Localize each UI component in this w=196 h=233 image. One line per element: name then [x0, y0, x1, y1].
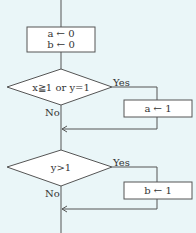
return-line-2 [62, 199, 157, 209]
decision2-no-label: No [45, 189, 60, 199]
decision1-yes-label: Yes [113, 78, 130, 88]
init-text-b: b ← 0 [47, 40, 75, 50]
return-line-1 [62, 117, 157, 129]
decision1-condition: x≧1 or y=1 [32, 83, 90, 93]
yes-branch-line-1 [112, 87, 157, 100]
decision2-yes-label: Yes [113, 158, 130, 168]
decision2-condition: y>1 [51, 163, 71, 173]
yes-branch-line-2 [112, 167, 157, 182]
flowchart-canvas [0, 0, 196, 233]
init-text-a: a ← 0 [47, 29, 74, 39]
assign-b-text: b ← 1 [144, 186, 172, 196]
assign-a-text: a ← 1 [144, 104, 171, 114]
decision1-no-label: No [45, 108, 60, 118]
